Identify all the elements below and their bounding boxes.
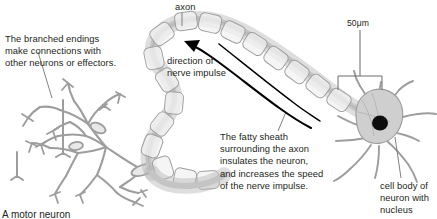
motor-neuron-diagram: axon 50μm The branched endings make conn…	[0, 0, 437, 219]
figure-caption: A motor neuron	[2, 209, 70, 219]
scale-bar	[338, 30, 382, 90]
label-cell-body: cell body of neuron with nucleus	[380, 180, 429, 217]
label-fatty-sheath: The fatty sheath surrounding the axon in…	[220, 131, 323, 192]
label-direction-of-impulse: direction of nerve impulse	[167, 55, 226, 79]
label-axon: axon	[175, 1, 196, 13]
label-scale-bar: 50μm	[347, 17, 369, 29]
label-branched-endings: The branched endings make connections wi…	[5, 33, 116, 70]
terminal-fibres	[11, 100, 70, 180]
terminal-boutons	[22, 79, 156, 206]
nucleus	[372, 115, 388, 130]
